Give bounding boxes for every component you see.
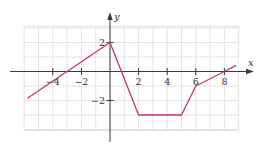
y-axis-arrow-icon bbox=[107, 12, 112, 20]
y-axis-label: y bbox=[113, 11, 120, 22]
line-chart: x y −4−224682−2 bbox=[0, 0, 267, 145]
x-tick-label: −2 bbox=[74, 76, 88, 87]
x-tick-label: 2 bbox=[136, 76, 142, 87]
x-tick-label: 8 bbox=[221, 76, 227, 87]
x-axis-arrow-icon bbox=[246, 69, 254, 74]
x-axis-label: x bbox=[248, 57, 254, 68]
x-tick-label: 4 bbox=[164, 76, 170, 87]
y-tick-label: −2 bbox=[91, 95, 105, 106]
